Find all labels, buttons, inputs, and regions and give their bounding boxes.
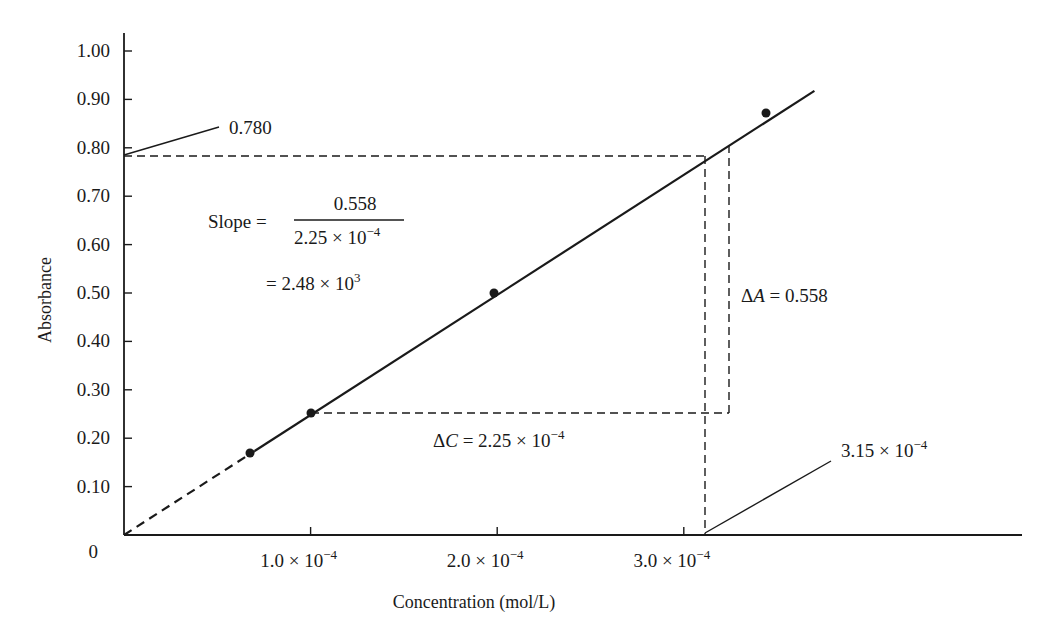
slope-label: Slope = (208, 211, 267, 232)
best-fit-line (255, 91, 815, 451)
annotations: 0.7803.15 × 10−4ΔA = 0.558ΔC = 2.25 × 10… (124, 117, 928, 533)
delta-c-label: ΔC = 2.25 × 10−4 (433, 427, 565, 451)
y-axis-title: Absorbance (35, 257, 55, 343)
calibration-chart: 00.100.200.300.400.500.600.700.800.901.0… (0, 0, 1049, 633)
slope-denominator: 2.25 × 10−4 (294, 224, 381, 248)
y-tick-label: 0.20 (77, 427, 110, 448)
y-tick-label: 0.50 (77, 282, 110, 303)
x-tick-label: 1.0 × 10−4 (260, 547, 337, 571)
callout-leader-315e-4 (705, 461, 831, 533)
data-point (490, 289, 499, 298)
y-tick-label: 0.60 (77, 234, 110, 255)
data-point (762, 109, 771, 118)
data-point (307, 409, 316, 418)
y-tick-label: 0.80 (77, 137, 110, 158)
y-tick-label: 0.40 (77, 330, 110, 351)
x-tick-label: 2.0 × 10−4 (447, 547, 524, 571)
y-tick-label: 0.10 (77, 476, 110, 497)
callout-315e-4: 3.15 × 10−4 (841, 437, 928, 461)
callout-0780: 0.780 (229, 117, 272, 138)
y-tick-label: 0.70 (77, 185, 110, 206)
extrapolated-line (124, 451, 255, 535)
x-axis-title: Concentration (mol/L) (393, 592, 555, 613)
delta-a-label: ΔA = 0.558 (741, 285, 828, 306)
fit-line (124, 91, 814, 535)
data-point (246, 449, 255, 458)
callout-leader-0780 (124, 127, 219, 155)
slope-result: = 2.48 × 103 (266, 270, 360, 294)
y-tick-label: 0 (89, 541, 99, 562)
y-tick-label: 0.90 (77, 88, 110, 109)
x-tick-label: 3.0 × 10−4 (633, 547, 710, 571)
y-tick-label: 1.00 (77, 40, 110, 61)
x-ticks: 1.0 × 10−42.0 × 10−43.0 × 10−4 (260, 527, 711, 571)
y-tick-label: 0.30 (77, 379, 110, 400)
slope-numerator: 0.558 (334, 193, 377, 214)
